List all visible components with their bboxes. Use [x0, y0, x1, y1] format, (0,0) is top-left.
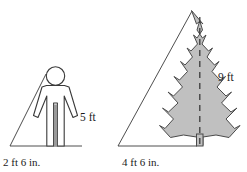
- tree-height-label: 9 ft: [218, 71, 234, 83]
- diagram-container: 5 ft 2 ft 6 in. 9 ft 4 ft 6 in.: [0, 0, 247, 172]
- person-group: 5 ft 2 ft 6 in.: [3, 67, 96, 168]
- person-leg-gap: [54, 105, 57, 147]
- person-head-icon: [46, 67, 64, 85]
- tree-group: 9 ft 4 ft 6 in.: [118, 11, 240, 169]
- person-silhouette-icon: [34, 67, 78, 146]
- tree-shadow-label: 4 ft 6 in.: [122, 156, 160, 168]
- person-shadow-label: 2 ft 6 in.: [3, 156, 41, 168]
- similar-triangles-diagram: 5 ft 2 ft 6 in. 9 ft 4 ft 6 in.: [0, 0, 247, 172]
- person-height-label: 5 ft: [80, 111, 96, 123]
